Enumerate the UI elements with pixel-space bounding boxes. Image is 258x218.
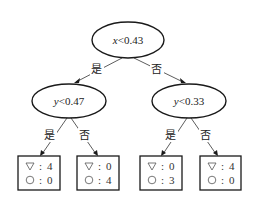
decision-tree-diagram: 是 否 是 否 是 否 x<0.43 y<0.47 y<0.33 : 4 : 0… (0, 0, 258, 218)
svg-text::: : (221, 160, 224, 172)
svg-text:0: 0 (229, 174, 235, 186)
right-condition: y<0.33 (173, 95, 205, 107)
right-node: y<0.33 (152, 84, 226, 118)
edge-label-left-no: 否 (79, 129, 90, 142)
svg-text:0: 0 (47, 174, 53, 186)
leaf-box-1: : 4 : 0 (18, 156, 60, 190)
edge-label-right-no: 否 (200, 129, 211, 142)
svg-text::: : (161, 174, 164, 186)
left-condition: y<0.47 (53, 95, 85, 107)
svg-text::: : (221, 174, 224, 186)
svg-text:3: 3 (169, 174, 175, 186)
root-condition: x<0.43 (112, 34, 144, 46)
root-node: x<0.43 (92, 22, 164, 58)
edge-label-right-yes: 是 (165, 129, 176, 142)
edge-label-root-no: 否 (151, 63, 162, 76)
leaf-box-4: : 4 : 0 (200, 156, 241, 190)
svg-text:0: 0 (106, 160, 112, 172)
leaf-box-3: : 0 : 3 (140, 156, 182, 190)
svg-text::: : (39, 174, 42, 186)
arrow-head-icon (180, 78, 186, 83)
edge-label-root-yes: 是 (91, 63, 102, 76)
arrow-head-icon (74, 78, 80, 83)
svg-text:4: 4 (229, 160, 235, 172)
svg-text::: : (161, 160, 164, 172)
leaf-box-2: : 0 : 4 (77, 156, 119, 190)
left-node: y<0.47 (32, 84, 106, 118)
svg-text:4: 4 (106, 174, 112, 186)
edge-label-left-yes: 是 (44, 129, 55, 142)
svg-text:0: 0 (169, 160, 175, 172)
svg-text::: : (98, 174, 101, 186)
svg-text::: : (39, 160, 42, 172)
svg-text:4: 4 (47, 160, 53, 172)
svg-text::: : (98, 160, 101, 172)
